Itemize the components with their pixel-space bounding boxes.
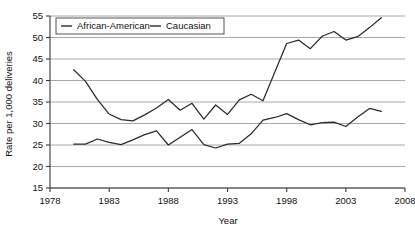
x-tick-label: 1978	[39, 195, 60, 206]
x-tick-label: 2008	[394, 195, 415, 206]
x-tick-label: 1998	[276, 195, 297, 206]
y-tick-label: 30	[32, 118, 43, 129]
y-tick-label: 55	[32, 10, 43, 21]
chart-canvas: 152025303540455055 197819831988199319982…	[0, 0, 415, 230]
x-tick-label: 1983	[99, 195, 120, 206]
y-tick-label: 15	[32, 182, 43, 193]
y-tick-label: 50	[32, 32, 43, 43]
y-tick-label: 35	[32, 96, 43, 107]
x-tick-label: 1993	[217, 195, 238, 206]
y-axis-tick-labels: 152025303540455055	[32, 10, 43, 193]
y-axis-title: Rate per 1,000 deliveries	[3, 51, 14, 157]
chart-legend: African-AmericanCaucasian	[56, 18, 224, 34]
legend-label-2: Caucasian	[166, 20, 211, 31]
x-axis-title: Year	[218, 215, 237, 226]
y-tick-label: 25	[32, 139, 43, 150]
x-tick-label: 1988	[158, 195, 179, 206]
x-axis-tick-labels: 1978198319881993199820032008	[39, 195, 415, 206]
y-tick-label: 20	[32, 161, 43, 172]
legend-label-1: African-American	[77, 20, 150, 31]
x-tick-label: 2003	[335, 195, 356, 206]
line-chart: 152025303540455055 197819831988199319982…	[0, 0, 415, 230]
y-tick-label: 40	[32, 75, 43, 86]
y-tick-label: 45	[32, 53, 43, 64]
x-axis-tick-marks	[50, 188, 405, 192]
